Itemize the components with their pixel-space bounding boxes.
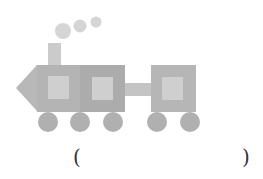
wheel-circle (103, 112, 123, 132)
smoke-puff (55, 23, 71, 39)
chimney (48, 43, 61, 65)
wheel-circle (180, 112, 200, 132)
wheel-circle (147, 112, 167, 132)
window-square (162, 77, 183, 100)
wheel-circle (70, 112, 90, 132)
nose-triangle (16, 65, 37, 111)
smoke-puff (91, 17, 102, 28)
wheel-circle (38, 112, 58, 132)
train-figure (0, 0, 263, 140)
connector-bar (125, 83, 151, 96)
window-square (48, 76, 69, 99)
window-square (92, 77, 113, 100)
wheels-group (38, 112, 200, 132)
open-parenthesis: ( (73, 147, 81, 167)
smoke-group (55, 17, 102, 40)
close-parenthesis: ) (242, 147, 250, 167)
smoke-puff (74, 20, 87, 33)
answer-blank[interactable] (82, 148, 240, 170)
